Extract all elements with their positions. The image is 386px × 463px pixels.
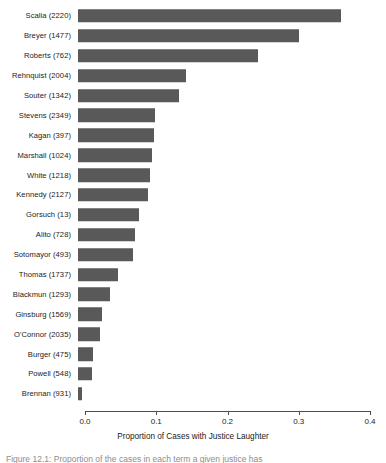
bar-row: Sotomayor (493) bbox=[0, 245, 386, 265]
bar-track bbox=[78, 86, 386, 106]
bar-track bbox=[78, 324, 386, 344]
bar-row: O'Connor (2035) bbox=[0, 324, 386, 344]
bar bbox=[78, 327, 100, 341]
bar bbox=[78, 228, 135, 242]
x-axis-tick bbox=[299, 411, 300, 415]
bar-track bbox=[78, 284, 386, 304]
bar bbox=[78, 148, 152, 162]
bar-track bbox=[78, 185, 386, 205]
bar-category-label: Kagan (397) bbox=[0, 131, 78, 140]
bar-row: Ginsburg (1569) bbox=[0, 304, 386, 324]
bar-track bbox=[78, 384, 386, 404]
bar-category-label: Rehnquist (2004) bbox=[0, 71, 78, 80]
figure-caption: Figure 12.1: Proportion of the cases in … bbox=[0, 454, 386, 463]
bar-track bbox=[78, 205, 386, 225]
x-axis-tick bbox=[228, 411, 229, 415]
bar-row: Marshall (1024) bbox=[0, 145, 386, 165]
x-axis-tick bbox=[370, 411, 371, 415]
x-axis-tick-label: 0.1 bbox=[151, 417, 162, 427]
bar bbox=[78, 9, 341, 23]
bar-track bbox=[78, 304, 386, 324]
bar bbox=[78, 288, 110, 302]
bar-row: Kagan (397) bbox=[0, 125, 386, 145]
bar-row: Powell (548) bbox=[0, 364, 386, 384]
x-axis-tick bbox=[156, 411, 157, 415]
bar-track bbox=[78, 125, 386, 145]
bar-row: Stevens (2349) bbox=[0, 105, 386, 125]
bar-category-label: Stevens (2349) bbox=[0, 111, 78, 120]
bar-category-label: Powell (548) bbox=[0, 369, 78, 378]
bar bbox=[78, 69, 186, 83]
bar-category-label: Burger (475) bbox=[0, 350, 78, 359]
bar-row: Blackmun (1293) bbox=[0, 284, 386, 304]
bar-row: Scalia (2220) bbox=[0, 6, 386, 26]
bar-track bbox=[78, 265, 386, 285]
bar bbox=[78, 367, 92, 381]
bar-category-label: Gorsuch (13) bbox=[0, 210, 78, 219]
bar-track bbox=[78, 145, 386, 165]
bar-category-label: Marshall (1024) bbox=[0, 151, 78, 160]
x-axis-tick bbox=[85, 411, 86, 415]
bar-row: Roberts (762) bbox=[0, 46, 386, 66]
bar-category-label: Scalia (2220) bbox=[0, 11, 78, 20]
bar-category-label: Alito (728) bbox=[0, 230, 78, 239]
figure-container: Scalia (2220)Breyer (1477)Roberts (762)R… bbox=[0, 0, 386, 463]
bar-category-label: Thomas (1737) bbox=[0, 270, 78, 279]
bar-category-label: Sotomayor (493) bbox=[0, 250, 78, 259]
bar-category-label: O'Connor (2035) bbox=[0, 330, 78, 339]
bar-category-label: Ginsburg (1569) bbox=[0, 310, 78, 319]
bar bbox=[78, 89, 179, 103]
bar bbox=[78, 387, 82, 401]
bar-row: Burger (475) bbox=[0, 344, 386, 364]
bar bbox=[78, 29, 299, 43]
bar bbox=[78, 168, 150, 182]
bar-track bbox=[78, 344, 386, 364]
x-axis-tick-label: 0.0 bbox=[79, 417, 90, 427]
bar-row: Alito (728) bbox=[0, 225, 386, 245]
bar-track bbox=[78, 66, 386, 86]
bar-track bbox=[78, 26, 386, 46]
bar bbox=[78, 188, 148, 202]
bar-row: White (1218) bbox=[0, 165, 386, 185]
bar-track bbox=[78, 364, 386, 384]
bar-track bbox=[78, 165, 386, 185]
bar-row: Gorsuch (13) bbox=[0, 205, 386, 225]
bar bbox=[78, 347, 93, 361]
x-axis-tick-label: 0.3 bbox=[293, 417, 304, 427]
bar bbox=[78, 49, 258, 63]
x-axis-tick-label: 0.4 bbox=[364, 417, 375, 427]
bar-category-label: White (1218) bbox=[0, 171, 78, 180]
x-axis-title: Proportion of Cases with Justice Laughte… bbox=[0, 432, 386, 442]
bar-category-label: Breyer (1477) bbox=[0, 31, 78, 40]
bar-track bbox=[78, 6, 386, 26]
bar-row: Thomas (1737) bbox=[0, 265, 386, 285]
bar-row: Kennedy (2127) bbox=[0, 185, 386, 205]
bar-row: Souter (1342) bbox=[0, 86, 386, 106]
bar-category-label: Kennedy (2127) bbox=[0, 190, 78, 199]
bar-track bbox=[78, 225, 386, 245]
bar bbox=[78, 268, 118, 282]
bar bbox=[78, 109, 155, 123]
bar-row: Brennan (931) bbox=[0, 384, 386, 404]
bar-category-label: Souter (1342) bbox=[0, 91, 78, 100]
bar-category-label: Brennan (931) bbox=[0, 389, 78, 398]
bar bbox=[78, 248, 133, 262]
bar bbox=[78, 208, 139, 222]
bar-track bbox=[78, 46, 386, 66]
bar bbox=[78, 308, 102, 322]
bar-chart-plot-area: Scalia (2220)Breyer (1477)Roberts (762)R… bbox=[0, 6, 386, 405]
bar-track bbox=[78, 245, 386, 265]
bar-row: Breyer (1477) bbox=[0, 26, 386, 46]
bar-row: Rehnquist (2004) bbox=[0, 66, 386, 86]
bar-track bbox=[78, 105, 386, 125]
bar-category-label: Blackmun (1293) bbox=[0, 290, 78, 299]
x-axis-tick-label: 0.2 bbox=[222, 417, 233, 427]
bar bbox=[78, 129, 154, 143]
bar-category-label: Roberts (762) bbox=[0, 51, 78, 60]
